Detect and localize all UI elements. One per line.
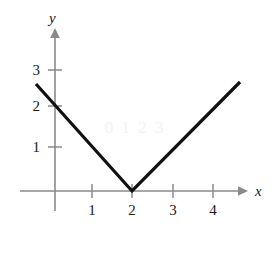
x-axis-arrow-icon	[238, 186, 248, 196]
watermark-text: 0 1 2 3	[105, 118, 166, 137]
y-tick-label-3: 3	[33, 62, 41, 78]
x-tick-label-1: 1	[88, 202, 96, 218]
graph-figure: 0 1 2 3 x y 1 2 3 4	[0, 0, 271, 267]
x-axis-label: x	[254, 183, 262, 199]
y-axis-label: y	[47, 10, 56, 26]
x-tick-label-4: 4	[209, 202, 217, 218]
x-tick-label-2: 2	[128, 202, 136, 218]
x-axis-group: x	[20, 183, 262, 199]
x-tick-label-3: 3	[169, 202, 177, 218]
y-axis-arrow-icon	[50, 28, 60, 38]
y-tick-label-2: 2	[33, 98, 41, 114]
coordinate-plot: 0 1 2 3 x y 1 2 3 4	[0, 0, 271, 267]
y-tick-labels: 1 2 3	[33, 62, 41, 155]
x-tick-labels: 1 2 3 4	[88, 202, 217, 218]
y-tick-label-1: 1	[33, 139, 41, 155]
